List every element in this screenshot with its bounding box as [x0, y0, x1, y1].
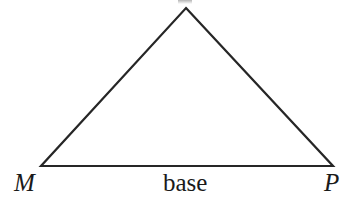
vertex-label-m: M: [14, 170, 35, 195]
geometry-figure: M base P: [0, 0, 359, 212]
side-label-base: base: [163, 170, 207, 195]
triangle-outline: [41, 8, 333, 166]
vertex-label-p: P: [324, 170, 339, 195]
